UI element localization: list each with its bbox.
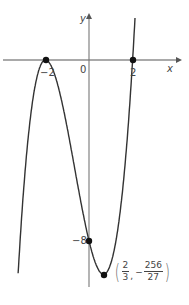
y-axis-label: y (80, 14, 86, 24)
x-axis-arrow-icon (176, 57, 182, 63)
y-numerator: 256 (144, 261, 163, 272)
y-denominator: 27 (148, 272, 159, 282)
minimum-point-label: ( 23 , − 25627 ) (113, 259, 172, 284)
origin-label: 0 (80, 65, 86, 75)
x-axis-label: x (167, 64, 173, 74)
comma: , (130, 271, 133, 281)
tick-label-neg8: −8 (72, 236, 87, 246)
minus-sign: − (135, 267, 143, 277)
tick-label-2: 2 (130, 68, 136, 78)
point-minimum (101, 272, 107, 278)
x-numerator: 2 (122, 261, 130, 272)
point-2 (130, 57, 136, 63)
point-y-intercept (86, 238, 92, 244)
y-axis-arrow-icon (86, 13, 92, 19)
tick-label-neg2: −2 (40, 68, 55, 78)
graph: y x 0 −2 2 −8 ( 23 , − 25627 ) (0, 0, 189, 305)
point-neg2 (43, 57, 49, 63)
x-denominator: 3 (123, 272, 129, 282)
